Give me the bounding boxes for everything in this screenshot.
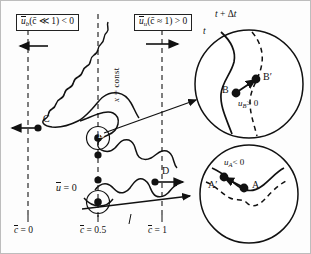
label-point-B-prime: B′ <box>263 72 272 82</box>
magnified-view-lower <box>200 145 298 243</box>
label-point-A: A <box>252 180 259 190</box>
label-u-A: uA< 0 <box>224 158 244 168</box>
axis-label-cbar-0: c = 0 <box>14 226 33 236</box>
label-point-B-inline: B <box>98 131 104 141</box>
axis-tick-mid <box>129 214 131 224</box>
label-point-B: B <box>222 85 229 95</box>
diagram-vector-layer <box>0 0 311 254</box>
marker-A <box>240 184 249 193</box>
label-u-B: uB> 0 <box>238 99 258 109</box>
axis-label-cbar-1: c = 1 <box>148 226 167 236</box>
label-time-t-text: t <box>203 26 206 36</box>
label-time-t: t <box>203 27 206 37</box>
marker-point-mid-1 <box>94 151 101 158</box>
axis-label-cbar-05: c = 0.5 <box>80 226 106 236</box>
marker-A-prime <box>220 173 229 182</box>
magnified-view-upper <box>195 30 303 138</box>
marker-B <box>232 89 241 98</box>
label-box-unburnt-condition: (c̄ ≈ 1) > 0 <box>147 16 187 26</box>
label-time-t-plus-dt: t + Δt <box>215 10 237 20</box>
label-box-unburnt-mean-velocity: uu(c̄ ≈ 1) > 0 <box>134 14 192 31</box>
label-box-burnt-mean-velocity: ub(c̄ ≪ 1) < 0 <box>16 14 79 31</box>
marker-point-A <box>94 198 102 206</box>
label-x-const: x = const <box>112 68 121 102</box>
marker-B-prime <box>252 75 261 84</box>
label-box-burnt-condition: (c̄ ≪ 1) < 0 <box>29 16 74 26</box>
label-point-D: D <box>162 166 169 176</box>
flame-brush-diagram: ub(c̄ ≪ 1) < 0 uu(c̄ ≈ 1) > 0 x = const … <box>0 0 311 254</box>
flame-front-upper-branch <box>43 22 139 127</box>
label-point-A-prime: A′ <box>208 180 217 190</box>
label-mean-u-zero: u = 0 <box>56 183 77 193</box>
magnifier-circle-lower <box>200 145 298 243</box>
axis-ticks <box>28 215 162 222</box>
label-point-C: C <box>43 114 50 124</box>
marker-point-mid-2 <box>94 176 101 183</box>
flame-point-markers <box>34 124 158 205</box>
